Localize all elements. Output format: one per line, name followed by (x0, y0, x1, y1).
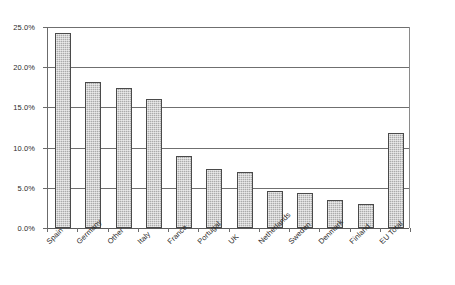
x-tick-label: Portugal (196, 219, 223, 246)
x-tick-label: Germany (75, 217, 104, 246)
x-tick-label: Other (105, 226, 125, 246)
x-tick-label: Spain (45, 226, 65, 246)
x-tick-label: UK (226, 232, 240, 246)
x-axis: SpainGermanyOtherItalyFrancePortugalUKNe… (0, 0, 455, 285)
x-tick-label: EU Total (378, 219, 405, 246)
x-tick-label: Finland (347, 222, 371, 246)
x-tick-label: France (166, 223, 189, 246)
x-tick-label: Sweden (287, 220, 313, 246)
bar-chart: 0.0%5.0%10.0%15.0%20.0%25.0% SpainGerman… (0, 0, 455, 285)
x-tick-label: Denmark (317, 218, 345, 246)
x-tick-label: Italy (136, 230, 152, 246)
